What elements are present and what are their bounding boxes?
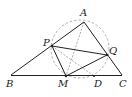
label-M: M xyxy=(57,78,69,89)
point-M-dot xyxy=(65,75,67,77)
segment-BA xyxy=(11,22,84,75)
label-D: D xyxy=(93,78,102,89)
label-P: P xyxy=(42,37,50,48)
label-Q: Q xyxy=(109,45,117,56)
label-A: A xyxy=(79,7,87,18)
point-Q-dot xyxy=(106,54,108,56)
point-P-dot xyxy=(51,45,53,47)
geometry-figure: A P Q B M D C xyxy=(0,0,132,97)
segment-PQ xyxy=(52,46,107,55)
segment-PM xyxy=(52,46,66,76)
label-C: C xyxy=(119,78,127,89)
label-B: B xyxy=(5,78,13,89)
point-D-dot xyxy=(93,75,95,77)
segment-PD xyxy=(52,46,94,76)
segment-MQ xyxy=(66,55,107,76)
